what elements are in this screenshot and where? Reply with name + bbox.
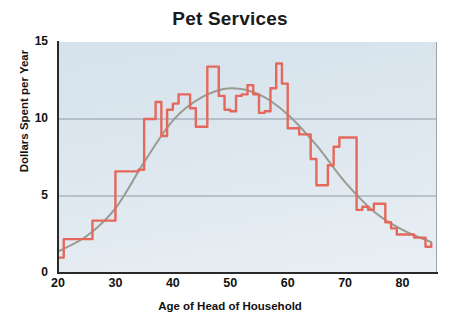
x-axis-label: Age of Head of Household [0, 300, 460, 312]
chart-title: Pet Services [0, 8, 460, 30]
plot-svg [58, 42, 437, 273]
trend-line [58, 88, 431, 251]
x-tick-label: 20 [38, 276, 78, 290]
x-tick-label: 70 [325, 276, 365, 290]
chart-container: Pet Services 051015 20304050607080 Dolla… [0, 0, 460, 330]
x-tick-label: 50 [210, 276, 250, 290]
x-tick-label: 40 [153, 276, 193, 290]
x-axis-line [57, 272, 438, 274]
x-tick-label: 80 [383, 276, 423, 290]
y-axis-line [57, 41, 59, 274]
data-line [58, 64, 431, 258]
data-series-path [58, 64, 431, 258]
x-tick-label: 30 [95, 276, 135, 290]
plot-area [58, 42, 437, 273]
trend-curve-path [58, 88, 431, 251]
y-axis-label: Dollars Spent per Year [18, 11, 30, 211]
x-tick-label: 60 [268, 276, 308, 290]
